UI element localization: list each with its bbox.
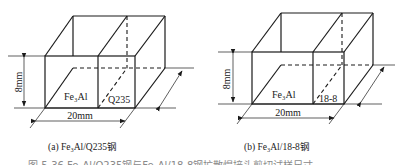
width-label: 20mm — [67, 110, 93, 121]
width-extension-right — [329, 104, 344, 124]
panel-caption: (b) Fe₃Al/18-8钢 — [244, 141, 310, 153]
shear-specimen-diagram: 8mm 20mm Fe₃Al Q235 (a) Fe₃Al/Q235钢 8mm … — [0, 0, 404, 165]
top-left-edge — [45, 16, 73, 56]
top-left-edge — [252, 13, 281, 52]
width-extension-left — [237, 104, 252, 124]
top-right-edge — [344, 13, 373, 52]
depth-dimension-arrow — [361, 67, 384, 102]
material-left-label: Fe₃Al — [64, 91, 88, 102]
panel-caption: (a) Fe₃Al/Q235钢 — [48, 141, 117, 153]
top-joint-edge — [98, 16, 127, 56]
width-extension-right — [120, 108, 135, 128]
material-left-label: Fe₃Al — [272, 89, 296, 100]
bottom-left-edge — [45, 68, 73, 108]
height-label: 8mm — [13, 72, 24, 93]
panel-b: 8mm 20mm Fe₃Al 18-8 (b) Fe₃Al/18-8钢 — [218, 13, 395, 153]
material-right-label: Q235 — [108, 94, 130, 105]
width-extension-left — [30, 108, 45, 128]
panel-a: 8mm 20mm Fe₃Al Q235 (a) Fe₃Al/Q235钢 — [8, 16, 194, 153]
top-joint-edge — [313, 13, 342, 52]
bottom-right-edge — [344, 65, 373, 104]
depth-dimension-arrow — [160, 71, 182, 106]
height-label: 8mm — [221, 69, 232, 90]
figure-caption-cropped: 图 5-36 Fe₃Al/Q235钢与Fe₃Al/18-8钢扩散焊接头剪切试样尺… — [28, 159, 313, 165]
top-right-edge — [135, 16, 165, 56]
width-label: 20mm — [275, 107, 301, 118]
material-right-label: 18-8 — [319, 93, 337, 104]
bottom-right-edge — [135, 68, 165, 108]
